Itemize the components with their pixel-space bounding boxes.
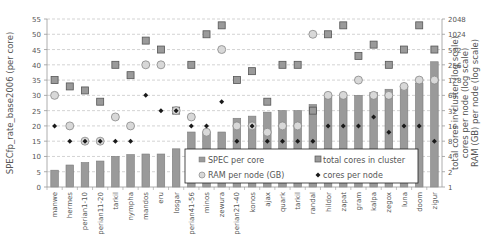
legend-label: cores per node (323, 171, 383, 180)
x-tick-label: gram (355, 192, 363, 211)
ram-marker (385, 91, 393, 99)
cores-per-node-marker (52, 123, 57, 128)
combo-chart: 0510152025303540455055124816326412825651… (0, 0, 487, 251)
x-tick-label: quark (279, 191, 287, 212)
total-cores-marker (309, 107, 316, 114)
y-tick-label: 25 (32, 108, 41, 116)
total-cores-marker (431, 46, 438, 53)
ram-marker (263, 128, 271, 136)
y2-title-line-3: total cores in cluster (log scale) (450, 36, 460, 170)
bar (157, 154, 165, 187)
ram-marker (415, 76, 423, 84)
total-cores-marker (385, 61, 392, 68)
y-tick-label: 5 (37, 169, 41, 177)
x-tick-label: minos (203, 192, 211, 213)
total-cores-marker (112, 61, 119, 68)
x-tick-label: nympha (127, 192, 135, 221)
x-tick-label: perian21-40 (233, 192, 241, 235)
y-tick-label: 35 (32, 77, 41, 85)
bar (172, 149, 180, 187)
x-tick-label: losgar (173, 192, 181, 214)
ram-marker (294, 122, 302, 130)
total-cores-marker (370, 41, 377, 48)
x-tick-label: zegox (385, 192, 393, 213)
total-cores-marker (249, 68, 256, 75)
bar (81, 163, 89, 187)
x-tick-label: randal (309, 192, 317, 214)
x-tick-label: kalpa (370, 192, 378, 211)
ram-marker (127, 122, 135, 130)
ram-marker (218, 46, 226, 54)
x-tick-label: tarkil (112, 192, 120, 210)
y-axis-title: SPECfp_rate_base2006 (per core) (5, 32, 15, 174)
cores-per-node-marker (204, 123, 209, 128)
y-tick-label: 15 (32, 138, 41, 146)
x-tick-label: zapat (340, 192, 348, 212)
ram-marker (233, 122, 241, 130)
ram-marker (354, 76, 362, 84)
y2-tick-label: 1 (448, 184, 452, 192)
circle-marker-icon (199, 172, 205, 178)
ram-marker (66, 122, 74, 130)
x-tick-label: manwe (51, 192, 59, 218)
total-cores-marker (127, 72, 134, 79)
ram-marker (111, 113, 119, 121)
x-tick-label: mandos (142, 192, 150, 220)
x-axis-labels: manwehermesperian1-10perian11-20tarkilny… (51, 191, 439, 235)
ram-marker (203, 128, 211, 136)
total-cores-marker (188, 61, 195, 68)
cores-per-node-marker (219, 99, 224, 104)
total-cores-marker (233, 77, 240, 84)
ram-marker (51, 91, 59, 99)
cores-per-node-marker (158, 108, 163, 113)
total-cores-marker (416, 22, 423, 29)
x-tick-label: luna (401, 192, 409, 207)
y-tick-label: 30 (32, 92, 41, 100)
bar (96, 161, 104, 187)
y-tick-label: 55 (32, 16, 41, 24)
y2-axis-title: RAM (GB) per node (log scale)cores per n… (450, 36, 480, 170)
x-tick-label: zigur (431, 192, 439, 209)
cores-per-node-marker (189, 123, 194, 128)
y-tick-label: 50 (32, 31, 41, 39)
y2-title-line-1: RAM (GB) per node (log scale) (470, 39, 480, 167)
total-cores-marker (157, 46, 164, 53)
ram-marker (187, 113, 195, 121)
total-cores-marker (279, 61, 286, 68)
bar (142, 154, 150, 187)
total-cores-marker (401, 46, 408, 53)
y-tick-label: 40 (32, 62, 41, 70)
legend-label: SPEC per core (208, 156, 264, 165)
legend-label: total cores in cluster (323, 156, 406, 165)
bar (127, 155, 135, 187)
total-cores-marker (142, 37, 149, 44)
x-tick-label: perian41-56 (188, 191, 196, 234)
x-tick-label: konos (249, 192, 257, 213)
x-tick-label: perian11-20 (97, 192, 105, 235)
total-cores-marker (97, 98, 104, 105)
ram-marker (339, 91, 347, 99)
cores-per-node-marker (113, 139, 118, 144)
y-tick-label: 10 (32, 153, 41, 161)
total-cores-marker (218, 22, 225, 29)
total-cores-marker (203, 31, 210, 38)
x-tick-label: hildor (325, 192, 333, 212)
chart-container: 0510152025303540455055124816326412825651… (0, 0, 487, 251)
x-tick-label: eru (157, 192, 165, 204)
total-cores-marker (340, 22, 347, 29)
ram-marker (370, 91, 378, 99)
ram-marker (400, 82, 408, 90)
total-cores-marker (81, 87, 88, 94)
y-tick-label: 20 (32, 123, 41, 131)
x-tick-label: doom (416, 192, 424, 212)
ram-marker (278, 122, 286, 130)
y-tick-label: 0 (37, 184, 41, 192)
markers (51, 22, 439, 145)
total-cores-marker (325, 31, 332, 38)
total-cores-marker (264, 98, 271, 105)
bar-swatch-icon (199, 157, 205, 162)
cores-per-node-marker (128, 139, 133, 144)
ram-marker (142, 61, 150, 69)
x-tick-label: perian1-10 (81, 192, 89, 230)
square-marker-icon (315, 156, 321, 162)
